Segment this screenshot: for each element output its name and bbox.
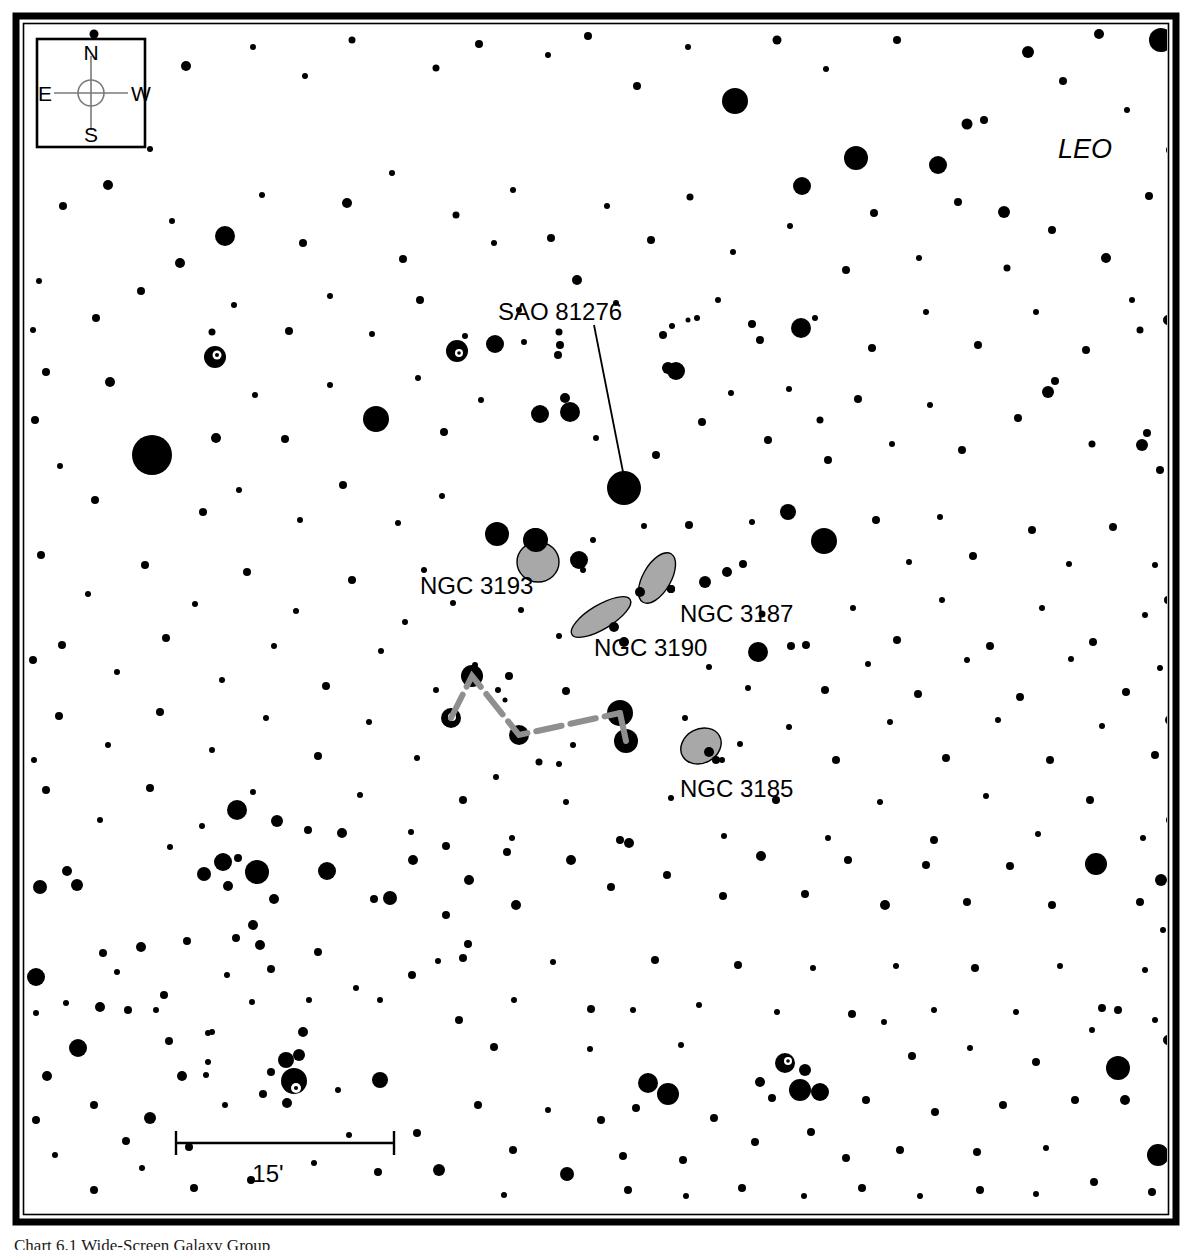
label-sao-81276: SAO 81276 <box>498 298 622 325</box>
star-chart-figure: LEO SAO 81276 NGC 3193 NGC 3190 NGC 3187… <box>0 0 1197 1251</box>
compass-north-label: N <box>83 41 98 64</box>
label-ngc-3185: NGC 3185 <box>680 775 793 802</box>
compass-rose: N S E W <box>37 39 151 147</box>
compass-west-label: W <box>131 82 151 105</box>
label-ngc-3187: NGC 3187 <box>680 600 793 627</box>
figure-caption: Chart 6.1 Wide-Screen Galaxy Group <box>14 1236 1114 1250</box>
label-ngc-3190: NGC 3190 <box>594 634 707 661</box>
label-ngc-3193: NGC 3193 <box>420 572 533 599</box>
compass-east-label: E <box>38 82 52 105</box>
constellation-label: LEO <box>1058 134 1112 164</box>
sky-map: LEO SAO 81276 NGC 3193 NGC 3190 NGC 3187… <box>0 0 1197 1251</box>
scale-bar-label: 15' <box>252 1160 283 1187</box>
compass-south-label: S <box>84 123 98 146</box>
